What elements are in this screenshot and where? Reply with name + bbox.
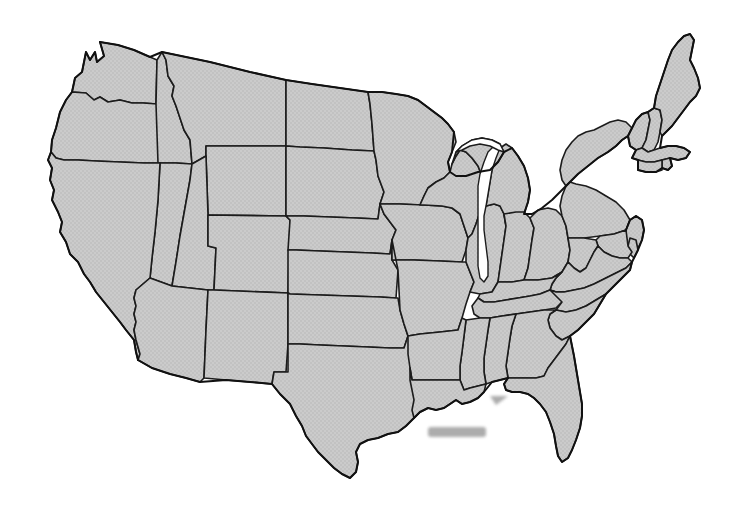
state-oklahoma[interactable] <box>288 293 408 348</box>
state-colorado[interactable] <box>208 215 290 293</box>
state-new-mexico[interactable] <box>204 290 288 384</box>
us-map-svg[interactable] <box>0 0 740 518</box>
us-map-figure: Contiguous United States outline map Uni… <box>0 0 740 518</box>
state-wyoming[interactable] <box>206 146 286 216</box>
state-south-dakota[interactable] <box>286 146 384 219</box>
gulf-redaction-bar <box>428 427 486 437</box>
state-oregon[interactable] <box>51 92 160 163</box>
